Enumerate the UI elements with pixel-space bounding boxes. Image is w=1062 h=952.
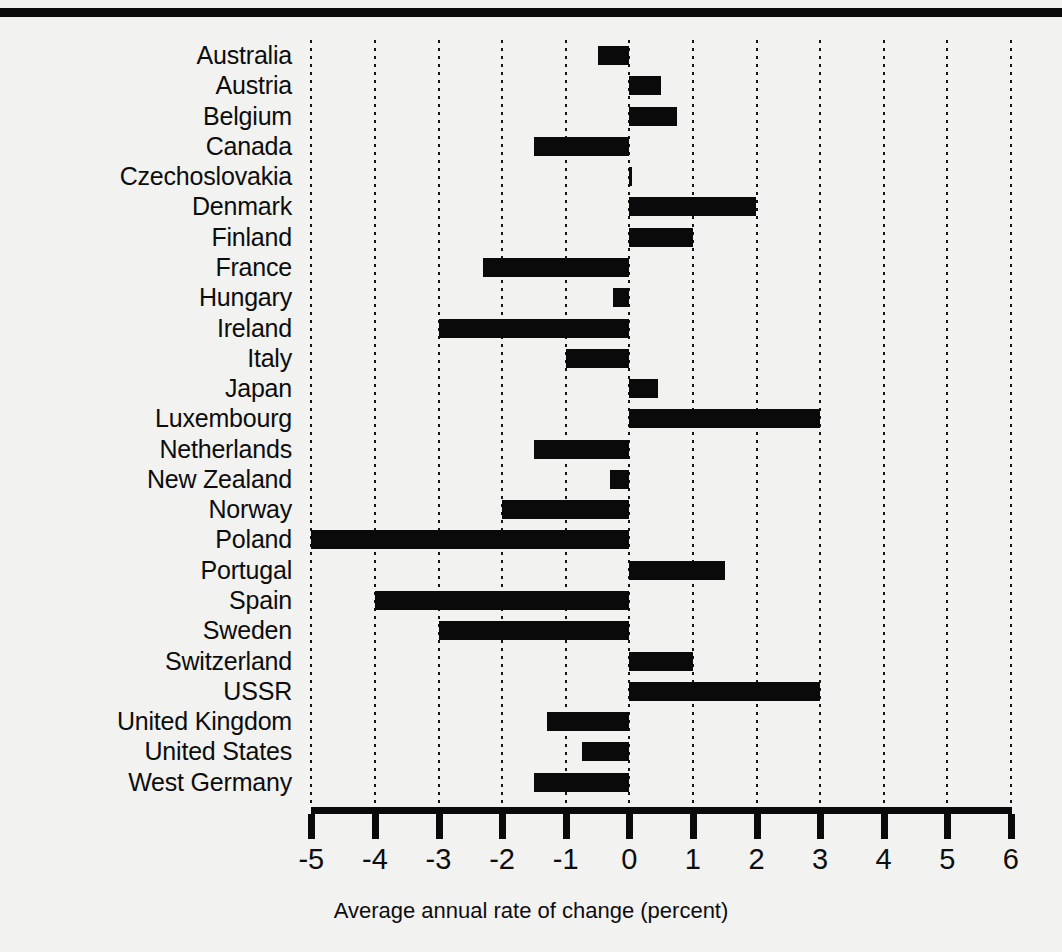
bar-row [311,767,1012,797]
axis-tick-label: 2 [727,843,787,876]
category-label: United States [145,736,293,766]
category-label: United Kingdom [117,706,292,736]
axis-tick-label: -4 [345,843,405,876]
axis-tick [881,814,888,839]
category-axis-labels: AustraliaAustriaBelgiumCanadaCzechoslova… [0,40,300,807]
bar [613,288,629,307]
bar [582,742,630,761]
category-label: Ireland [217,313,292,343]
bar-row [311,736,1012,766]
axis-tick-label: 5 [917,843,977,876]
bar [629,167,632,186]
bar-row [311,676,1012,706]
bar [629,76,661,95]
category-label: Sweden [203,615,292,645]
category-label: Hungary [199,282,292,312]
axis-tick [1008,814,1015,839]
bar-row [311,282,1012,312]
bar [610,470,629,489]
bar-row [311,403,1012,433]
axis-tick [499,814,506,839]
bar-row [311,70,1012,100]
category-label: USSR [223,676,292,706]
bar [547,712,630,731]
axis-tick-label: 6 [981,843,1041,876]
bar-chart-figure: AustraliaAustriaBelgiumCanadaCzechoslova… [0,0,1062,952]
axis-tick [754,814,761,839]
bar [629,409,820,428]
bar [629,228,693,247]
axis-tick-label: 4 [854,843,914,876]
bar-row [311,615,1012,645]
category-label: Norway [208,494,292,524]
bar [502,500,629,519]
category-label: Poland [215,524,292,554]
category-label: Italy [247,343,292,373]
category-label: Portugal [200,555,292,585]
axis-tick-label: -2 [472,843,532,876]
bar [375,591,629,610]
bar [629,107,677,126]
category-label: Luxembourg [155,403,292,433]
axis-tick [308,814,315,839]
bar [629,379,658,398]
bar-row [311,343,1012,373]
bar [534,137,629,156]
bar-row [311,434,1012,464]
bar [534,773,629,792]
bar-row [311,252,1012,282]
axis-tick-label: -1 [536,843,596,876]
category-label: West Germany [128,767,292,797]
bar [629,197,756,216]
bar-row [311,161,1012,191]
bar [629,561,724,580]
bar [483,258,629,277]
axis-tick-label: -5 [281,843,341,876]
category-label: Netherlands [159,434,292,464]
bar-row [311,191,1012,221]
bar [311,530,629,549]
bar [629,652,693,671]
bar-row [311,555,1012,585]
category-label: Japan [225,373,292,403]
category-label: Denmark [192,191,292,221]
axis-tick [817,814,824,839]
bar-row [311,313,1012,343]
x-axis-title: Average annual rate of change (percent) [0,898,1062,924]
bar [598,46,630,65]
category-label: Czechoslovakia [120,161,292,191]
category-label: Switzerland [165,646,292,676]
bar-row [311,646,1012,676]
category-label: Finland [211,222,292,252]
category-label: Australia [197,40,292,70]
category-label: Belgium [203,101,292,131]
axis-tick-label: 0 [599,843,659,876]
bar-row [311,524,1012,554]
axis-tick [563,814,570,839]
value-axis-line [311,807,1012,814]
bar-row [311,494,1012,524]
bar-row [311,222,1012,252]
axis-tick-label: 3 [790,843,850,876]
axis-tick [690,814,697,839]
category-label: Spain [229,585,292,615]
bar-row [311,373,1012,403]
axis-tick-label: -3 [409,843,469,876]
bar-row [311,706,1012,736]
bar-row [311,101,1012,131]
plot-area [311,40,1012,807]
bar [439,319,630,338]
bar [439,621,630,640]
category-label: New Zealand [147,464,292,494]
axis-tick [436,814,443,839]
bar-row [311,585,1012,615]
category-label: France [215,252,292,282]
bar-row [311,40,1012,70]
axis-tick [944,814,951,839]
bar [534,440,629,459]
category-label: Canada [206,131,292,161]
axis-tick-label: 1 [663,843,723,876]
axis-tick [626,814,633,839]
category-label: Austria [216,70,292,100]
bar-row [311,464,1012,494]
